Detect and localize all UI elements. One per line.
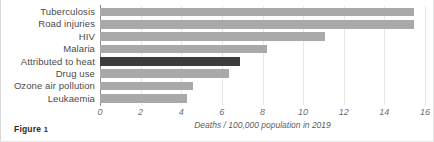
category-label-ozone-air-pollution: Ozone air pollution [0,80,95,92]
x-tick-8: 8 [260,107,265,117]
figure-border-bottom [0,141,434,142]
bar-row [100,93,425,105]
x-tick-4: 4 [179,107,184,117]
bar-row [100,31,425,43]
bar-row [100,43,425,55]
bar-tuberculosis [100,8,414,17]
x-tick-12: 12 [339,107,349,117]
bar-row [100,68,425,80]
figure-caption-label: Figure [14,124,41,134]
bar-row [100,56,425,68]
bar-row [100,18,425,30]
x-tick-0: 0 [97,107,102,117]
x-tick-16: 16 [420,107,430,117]
category-label-leukaemia: Leukaemia [0,93,95,105]
x-tick-14: 14 [379,107,389,117]
bar-series [100,6,425,105]
bar-row [100,80,425,92]
category-axis-labels: TuberculosisRoad injuriesHIVMalariaAttri… [0,6,95,105]
x-axis-tick-labels: 0246810121416 [100,107,425,121]
bar-hiv [100,32,325,41]
bar-malaria [100,45,267,54]
figure-container: TuberculosisRoad injuriesHIVMalariaAttri… [0,0,434,142]
figure-caption-number: 1 [44,125,48,134]
category-label-attributed-to-heat: Attributed to heat [0,56,95,68]
bar-road-injuries [100,20,414,29]
bar-drug-use [100,69,229,78]
category-label-tuberculosis: Tuberculosis [0,6,95,18]
category-label-road-injuries: Road injuries [0,18,95,30]
bar-row [100,6,425,18]
figure-caption: Figure 1 [14,124,48,134]
plot-area [100,6,425,105]
category-label-drug-use: Drug use [0,68,95,80]
gridline-16 [425,6,426,105]
bar-ozone-air-pollution [100,82,193,91]
category-label-hiv: HIV [0,31,95,43]
x-tick-2: 2 [138,107,143,117]
x-tick-6: 6 [219,107,224,117]
bar-attributed-to-heat [100,57,240,66]
x-axis-title: Deaths / 100,000 population in 2019 [100,120,425,130]
bar-leukaemia [100,94,187,103]
x-tick-10: 10 [298,107,308,117]
category-label-malaria: Malaria [0,43,95,55]
